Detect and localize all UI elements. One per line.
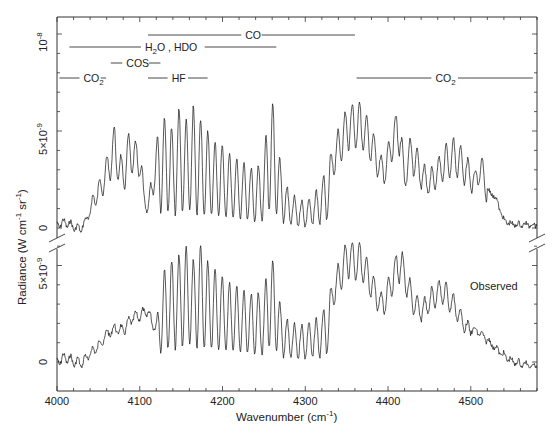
band-label: COS bbox=[126, 57, 149, 69]
y-tick-label-lower: 5×10-9 bbox=[35, 257, 49, 289]
band-label-text: O , HDO bbox=[157, 41, 197, 53]
y-tick-labels: 05×10-910-805×10-9 bbox=[35, 32, 49, 365]
band-label-text: COS bbox=[126, 57, 149, 69]
y-tick-label-base: 5×10 bbox=[37, 265, 49, 290]
y-tick-label-exponent: -9 bbox=[35, 123, 44, 131]
y-tick-label-lower: 0 bbox=[37, 359, 49, 365]
y-tick-label-exponent: -9 bbox=[35, 257, 44, 265]
y-tick-label-base: 10 bbox=[37, 39, 49, 51]
band-label-subscript: 2 bbox=[451, 78, 456, 87]
band-label: HF bbox=[172, 72, 186, 84]
x-tick-label: 4400 bbox=[376, 395, 400, 407]
spectrum-chart: 400041004200430044004500 05×10-910-805×1… bbox=[0, 0, 556, 435]
band-label-text: H bbox=[145, 41, 153, 53]
band-label: CO2 bbox=[83, 72, 104, 87]
band-label: CO bbox=[245, 29, 261, 41]
y-tick-label-base: 0 bbox=[37, 359, 49, 365]
y-tick-label-base: 0 bbox=[37, 225, 49, 231]
x-axis-title: Wavenumber (cm-1) bbox=[236, 409, 337, 423]
observed-spectrum-line bbox=[57, 243, 537, 368]
axis-breaks bbox=[49, 234, 545, 252]
band-labels: COH2O , HDOCOSCO2HFCO2 bbox=[59, 29, 532, 87]
y-axis-title-mid: sr bbox=[16, 200, 28, 213]
band-label-subscript: 2 bbox=[99, 78, 104, 87]
axes bbox=[57, 17, 537, 391]
x-axis-title-end: ) bbox=[333, 411, 337, 423]
observed-annotation: Observed bbox=[470, 280, 518, 292]
y-axis-title-main: Radiance (W cm bbox=[16, 220, 28, 305]
x-tick-label: 4000 bbox=[45, 395, 69, 407]
x-tick-label: 4300 bbox=[293, 395, 317, 407]
y-tick-label-exponent: -8 bbox=[35, 32, 44, 40]
y-axis-title-end: ) bbox=[16, 189, 28, 193]
x-tick-labels: 400041004200430044004500 bbox=[45, 395, 483, 407]
band-label: CO2 bbox=[435, 72, 456, 87]
band-label-text: CO bbox=[245, 29, 261, 41]
band-label-text: HF bbox=[172, 72, 186, 84]
series bbox=[57, 102, 537, 368]
x-tick-label: 4200 bbox=[210, 395, 234, 407]
y-tick-label-upper: 5×10-9 bbox=[35, 123, 49, 155]
x-tick-label: 4100 bbox=[128, 395, 152, 407]
band-label-text: CO bbox=[435, 72, 451, 84]
y-tick-label-upper: 0 bbox=[37, 225, 49, 231]
y-tick-label-upper: 10-8 bbox=[35, 32, 49, 52]
y-axis-title: Radiance (W cm-1 sr-1) bbox=[14, 189, 28, 305]
x-axis-title-main: Wavenumber (cm bbox=[236, 411, 326, 423]
calculated-spectrum-line bbox=[57, 102, 537, 232]
band-label-text: CO bbox=[83, 72, 99, 84]
band-label: H2O , HDO bbox=[145, 41, 197, 56]
ticks bbox=[57, 17, 537, 391]
y-tick-label-base: 5×10 bbox=[37, 130, 49, 155]
x-tick-label: 4500 bbox=[459, 395, 483, 407]
